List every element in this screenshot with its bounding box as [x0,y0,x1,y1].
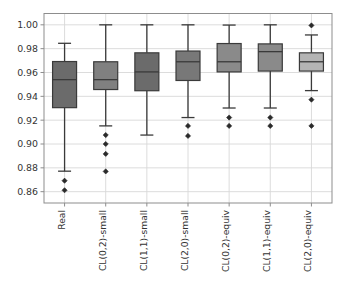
x-tick-label-0: Real [56,210,67,230]
box-rect [176,51,200,80]
x-tick-label-3: CL(2,0)-small [179,210,190,271]
y-tick-label-7: 1.00 [17,19,38,30]
x-tick-label-1: CL(0,2)-small [97,210,108,271]
y-tick-label-3: 0.92 [17,115,38,126]
y-tick-label-1: 0.88 [17,162,38,173]
figure-background [0,0,345,282]
y-tick-label-5: 0.96 [17,67,38,78]
box-rect [217,44,241,72]
x-tick-label-4: CL(0,2)-equiv [220,209,231,271]
y-tick-label-4: 0.94 [17,91,38,102]
chart-canvas: 0.860.880.900.920.940.960.981.00 RealCL(… [0,0,345,282]
x-tick-label-2: CL(1,1)-small [138,210,149,271]
y-tick-label-0: 0.86 [17,186,38,197]
y-tick-label-2: 0.90 [17,138,38,149]
box-rect [94,62,118,90]
y-tick-label-6: 0.98 [17,43,38,54]
box-plot-figure: 0.860.880.900.920.940.960.981.00 RealCL(… [0,0,345,282]
box-rect [53,62,77,108]
x-tick-label-6: CL(2,0)-equiv [302,209,313,271]
box-rect [258,44,282,71]
x-tick-label-5: CL(1,1)-equiv [261,209,272,271]
